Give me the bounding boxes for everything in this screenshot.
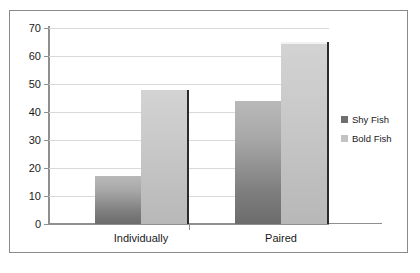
x-axis-label-individually: Individually [114, 232, 168, 244]
legend-label-bold-fish: Bold Fish [352, 134, 392, 144]
category-tick-divider [189, 224, 190, 230]
y-tick-mark-40 [44, 112, 49, 113]
y-tick-label-40: 40 [29, 107, 41, 118]
y-tick-label-70: 70 [29, 23, 41, 34]
legend-label-shy-fish: Shy Fish [352, 115, 389, 125]
y-tick-mark-30 [44, 140, 49, 141]
plot-area: 70 60 50 40 30 20 10 0 [49, 28, 329, 224]
legend-item-shy-fish[interactable]: Shy Fish [341, 115, 403, 125]
y-tick-label-30: 30 [29, 135, 41, 146]
x-axis-label-paired: Paired [265, 232, 297, 244]
y-tick-mark-70 [44, 28, 49, 29]
y-tick-mark-20 [44, 168, 49, 169]
y-tick-mark-60 [44, 56, 49, 57]
gridline-70: 70 [49, 28, 329, 29]
y-tick-label-20: 20 [29, 163, 41, 174]
bar-edge-paired [327, 42, 329, 224]
bar-chart-figure: 70 60 50 40 30 20 10 0 [0, 0, 420, 273]
y-tick-mark-50 [44, 84, 49, 85]
y-tick-label-50: 50 [29, 79, 41, 90]
y-tick-mark-0 [44, 224, 49, 225]
legend-item-bold-fish[interactable]: Bold Fish [341, 134, 403, 144]
bar-bold-fish-individually[interactable] [141, 90, 187, 224]
legend-swatch-shy-fish-icon [341, 116, 348, 123]
chart-legend: Shy Fish Bold Fish [341, 115, 403, 152]
bar-shy-fish-paired[interactable] [235, 101, 281, 224]
bar-edge-individually [187, 90, 189, 224]
y-tick-label-60: 60 [29, 51, 41, 62]
legend-swatch-bold-fish-icon [341, 135, 348, 142]
y-tick-label-10: 10 [29, 191, 41, 202]
bar-bold-fish-paired[interactable] [281, 42, 327, 224]
y-tick-label-0: 0 [35, 219, 41, 230]
bar-band-bold-fish-paired [281, 42, 327, 44]
bar-shy-fish-individually[interactable] [95, 176, 141, 224]
y-tick-mark-10 [44, 196, 49, 197]
